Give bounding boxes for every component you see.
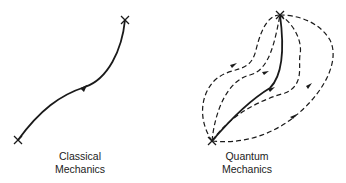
quantum-diagram — [203, 11, 334, 145]
quantum-label: Quantum Mechanics — [197, 150, 297, 176]
quantum-label-line1: Quantum — [197, 150, 297, 163]
classical-label-line1: Classical — [30, 150, 130, 163]
start-point-cross-icon — [14, 136, 22, 144]
quantum-label-line2: Mechanics — [197, 163, 297, 176]
path-arrow-icon — [290, 114, 297, 119]
dashed-path-outer-bottom — [212, 15, 333, 142]
path-arrow-icon — [306, 83, 312, 89]
classical-diagram — [14, 16, 129, 144]
classical-label: Classical Mechanics — [30, 150, 130, 176]
dashed-path-outer-top — [203, 15, 280, 141]
dashed-path-inner-bottom — [212, 15, 300, 141]
path-arrow-icon — [262, 71, 269, 75]
path-arrow-icon — [230, 63, 237, 68]
dashed-path-inner-top — [212, 15, 280, 141]
classical-label-line2: Mechanics — [30, 163, 130, 176]
classical-path — [18, 20, 125, 140]
quantum-classical-path — [212, 15, 282, 141]
